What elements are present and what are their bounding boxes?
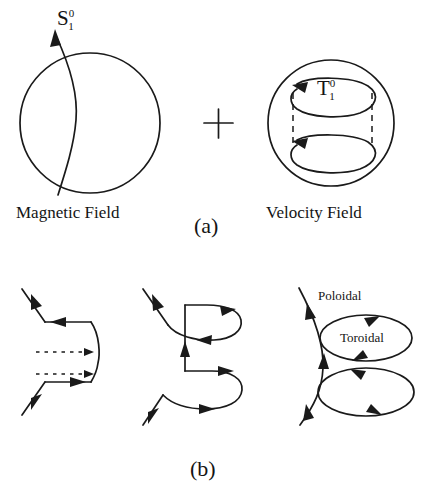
panel-b-graphics (0, 0, 422, 501)
stage1-flow-arrow-upper-head (84, 348, 94, 356)
stage1-flow-arrow-lower-head (84, 370, 94, 378)
stage2-group (143, 289, 242, 425)
stage2-upper-loop-arrowhead-return (196, 335, 212, 345)
stage1-lower-diagonal-arrowhead (31, 394, 42, 410)
stage1-upper-diagonal-arrowhead (31, 294, 42, 310)
stage1-lower-horizontal-arrowhead (70, 377, 86, 387)
stage3-toroidal-upper-arrowhead-bottom (352, 350, 368, 361)
stage3-toroidal-lower-arrowhead-top (350, 369, 366, 380)
dynamo-field-figure: S01 T01 Magnetic Field Velocity Field (a… (0, 0, 422, 501)
stage3-toroidal-loop-lower (318, 368, 414, 416)
stage2-upper-diagonal-arrowhead (152, 294, 164, 311)
stage2-lower-diagonal (143, 395, 163, 425)
stage2-vertical-connector-arrowhead (180, 341, 190, 357)
stage3-poloidal-arrowhead-middle (318, 353, 329, 369)
stage3-group (299, 288, 414, 425)
panel-b-caption: (b) (190, 458, 216, 480)
poloidal-label: Poloidal (318, 289, 361, 302)
stage2-lower-loop (163, 371, 242, 409)
stage2-lower-loop-arrowhead-bottom (199, 404, 215, 414)
stage3-toroidal-lower-arrowhead-bottom (366, 404, 382, 415)
stage2-lower-diagonal-arrowhead (148, 408, 159, 424)
toroidal-label: Toroidal (340, 331, 384, 344)
stage3-poloidal-arrowhead-upper (305, 303, 316, 320)
stage1-upper-horizontal-arrowhead (50, 317, 66, 327)
stage1-group (22, 289, 99, 415)
stage3-toroidal-upper-arrowhead-top (364, 316, 380, 327)
stage3-poloidal-line (299, 288, 323, 425)
